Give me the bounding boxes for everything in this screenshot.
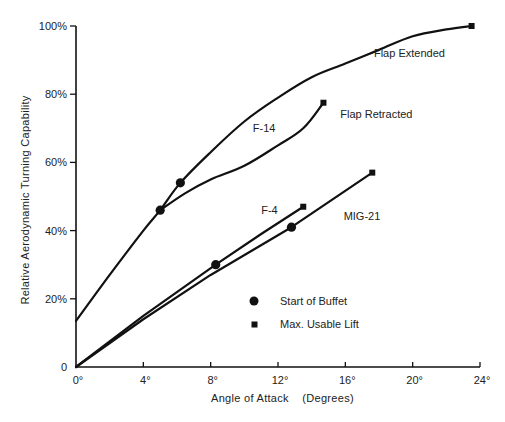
series-f-14-flap-extended	[76, 26, 472, 321]
legend-buffet-marker	[250, 297, 259, 306]
chart: 020%40%60%80%100% 0°4°8°12°16°20°24° Rel…	[0, 0, 505, 422]
legend: Start of Buffet Max. Usable Lift	[250, 295, 359, 330]
annotation-mig-21: MIG-21	[344, 210, 381, 222]
x-ticks: 0°4°8°12°16°20°24°	[73, 362, 491, 386]
annotations-group: Flap ExtendedFlap RetractedF-14F-4MIG-21	[253, 47, 445, 223]
series-group	[76, 26, 472, 367]
series-mig-21	[76, 173, 372, 367]
x-tick-label: 8°	[207, 374, 218, 386]
max-lift-marker-mig-21	[369, 170, 375, 176]
max-lift-marker-f-14-flap-extended	[469, 23, 475, 29]
buffet-marker-f-14-flap-retracted	[156, 206, 165, 215]
x-tick-label: 12°	[272, 374, 289, 386]
max-lift-marker-f-14-flap-retracted	[320, 100, 326, 106]
x-tick-label: 24°	[474, 374, 491, 386]
y-ticks: 020%40%60%80%100%	[39, 20, 76, 373]
y-tick-label: 20%	[45, 293, 67, 305]
y-tick-label: 100%	[39, 20, 67, 32]
x-tick-label: 0°	[73, 374, 84, 386]
y-tick-label: 60%	[45, 156, 67, 168]
series-f-14-flap-retracted	[160, 103, 323, 210]
y-tick-label: 40%	[45, 225, 67, 237]
y-axis-title: Relative Aerodynamic Turning Capability	[19, 95, 31, 304]
x-tick-label: 4°	[140, 374, 151, 386]
annotation-f-4: F-4	[261, 204, 278, 216]
legend-max-lift-marker	[252, 322, 258, 328]
markers-group	[156, 23, 475, 269]
y-tick-label: 0	[61, 361, 67, 373]
annotation-flap-extended: Flap Extended	[374, 47, 445, 59]
legend-buffet-label: Start of Buffet	[280, 295, 347, 307]
buffet-marker-f-4	[211, 260, 220, 269]
annotation-flap-retracted: Flap Retracted	[340, 108, 412, 120]
x-tick-label: 20°	[406, 374, 423, 386]
buffet-marker-mig-21	[287, 223, 296, 232]
annotation-f-14: F-14	[253, 122, 276, 134]
max-lift-marker-f-4	[300, 204, 306, 210]
legend-max-lift-label: Max. Usable Lift	[280, 318, 359, 330]
x-tick-label: 16°	[339, 374, 356, 386]
y-tick-label: 80%	[45, 88, 67, 100]
x-axis-title: Angle of Attack (Degrees)	[211, 392, 354, 404]
buffet-marker-f-14-flap-extended	[176, 178, 185, 187]
